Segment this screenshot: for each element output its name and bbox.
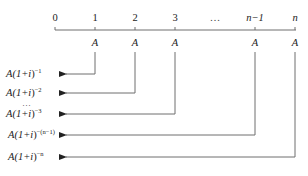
- tick-label-2: 2: [132, 12, 137, 24]
- discount-arrows: [66, 52, 295, 157]
- tick-label-ellipsis: …: [210, 12, 221, 24]
- pv-base: A(1+: [8, 151, 30, 162]
- pv-exponent: −(n−1): [37, 128, 55, 135]
- present-value-n: A(1+i)−n: [8, 151, 44, 163]
- present-value-3: A(1+i)−3: [6, 108, 42, 120]
- pv-exponent: −2: [35, 86, 42, 93]
- pv-exponent: −1: [35, 67, 42, 74]
- pv-base: A(1+: [8, 129, 30, 140]
- tick-label-0: 0: [52, 12, 57, 24]
- pv-base: A(1+: [6, 68, 28, 79]
- payment-label-1: A: [92, 37, 98, 49]
- payment-label-n: A: [292, 37, 298, 49]
- tick-label-3: 3: [172, 12, 177, 24]
- payment-label-2: A: [132, 37, 138, 49]
- pv-base: A(1+: [6, 108, 28, 119]
- present-value-n-minus-1: A(1+i)−(n−1): [8, 129, 55, 141]
- tick-label-1: 1: [92, 12, 97, 24]
- pv-exponent: −n: [37, 150, 44, 157]
- tick-label-n-minus-1: n−1: [246, 12, 264, 24]
- annuity-timeline-diagram: 0 1 2 3 … n−1 n A A A A A A(1+i)−1 A(1+i…: [0, 0, 308, 176]
- pv-exponent: −3: [35, 107, 42, 114]
- timeline-lines: [0, 0, 308, 176]
- payment-label-n-minus-1: A: [252, 37, 258, 49]
- present-value-1: A(1+i)−1: [6, 68, 42, 80]
- tick-label-n: n: [292, 12, 297, 24]
- payment-label-3: A: [172, 37, 178, 49]
